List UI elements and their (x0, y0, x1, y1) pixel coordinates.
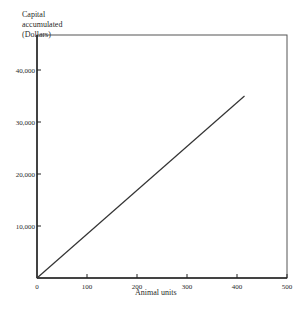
y-tick-label: 30,000 (16, 119, 36, 127)
x-tick-label: 300 (182, 283, 193, 291)
y-tick-label: 20,000 (16, 171, 36, 179)
x-tick-label: 0 (35, 283, 39, 291)
x-tick-label: 100 (82, 283, 93, 291)
chart-canvas: 0100200300400500 10,00020,00030,00040,00… (0, 0, 306, 312)
x-tick-label: 400 (232, 283, 243, 291)
y-tick-label: 10,000 (16, 223, 36, 231)
y-tick-label: 40,000 (16, 67, 36, 75)
x-tick-label: 500 (282, 283, 293, 291)
data-line (37, 96, 245, 278)
x-axis-label: Animal units (135, 288, 177, 297)
plot-frame (37, 35, 287, 278)
